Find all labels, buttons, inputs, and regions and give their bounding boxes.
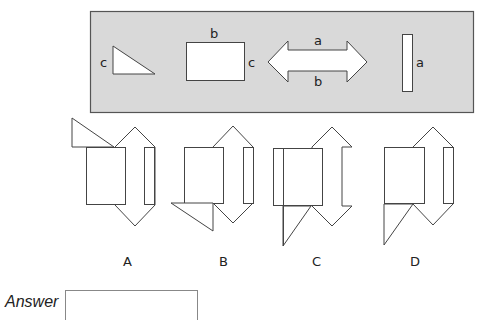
option-a-triangle — [72, 118, 114, 147]
option-d-figure[interactable] — [384, 127, 454, 245]
ref-rectangle-shape — [187, 43, 245, 81]
option-c-rect — [284, 149, 323, 206]
option-d-triangle — [384, 204, 413, 245]
option-b-figure[interactable] — [171, 126, 254, 231]
option-d-label[interactable]: D — [410, 254, 420, 269]
option-b-rect — [185, 148, 224, 204]
option-c-label[interactable]: C — [312, 254, 321, 269]
option-d-rect — [385, 148, 425, 204]
option-a-figure[interactable] — [72, 118, 155, 226]
ref-arrow-label-a: a — [314, 33, 322, 48]
reference-panel: c b c a b a — [91, 12, 474, 113]
answer-label: Answer — [5, 293, 58, 311]
option-b-narrow-rect — [244, 148, 254, 204]
option-a-narrow-rect — [145, 148, 155, 205]
ref-rectangle-label-b: b — [210, 26, 218, 41]
option-d-narrow-rect — [444, 148, 454, 204]
option-c-figure[interactable] — [274, 127, 353, 246]
option-b-label[interactable]: B — [219, 254, 228, 269]
ref-narrow-rectangle-shape — [403, 35, 413, 92]
option-b-triangle — [171, 203, 213, 231]
ref-narrow-label-a: a — [416, 55, 424, 70]
ref-rectangle-label-c: c — [248, 55, 255, 70]
ref-arrow-label-b: b — [314, 74, 322, 89]
option-a-label[interactable]: A — [123, 254, 132, 269]
option-a-rect — [87, 148, 126, 205]
answer-input[interactable] — [65, 290, 198, 320]
option-c-narrow-rect — [274, 149, 284, 206]
option-c-triangle — [283, 206, 311, 246]
ref-triangle-label-c: c — [100, 55, 107, 70]
